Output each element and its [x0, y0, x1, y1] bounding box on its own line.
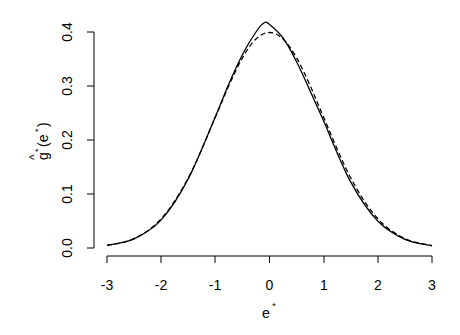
x-title-text: e: [262, 305, 270, 321]
x-tick-3: 0: [266, 277, 274, 293]
y-tick-2: 0.2: [59, 130, 75, 150]
y-axis: [87, 32, 94, 248]
x-axis: [107, 256, 432, 263]
x-tick-labels: -3 -2 -1 0 1 2 3: [101, 277, 436, 293]
y-title-close: ): [35, 122, 51, 127]
y-tick-1: 0.1: [59, 184, 75, 204]
y-title-sup2: *: [33, 128, 43, 132]
y-tick-0: 0.0: [59, 238, 75, 258]
x-tick-2: -1: [209, 277, 222, 293]
y-title-sup: *: [33, 148, 43, 152]
y-tick-labels: 0.0 0.1 0.2 0.3 0.4: [59, 22, 75, 258]
x-title-sup: *: [272, 301, 276, 311]
x-tick-6: 3: [428, 277, 436, 293]
x-tick-5: 2: [374, 277, 382, 293]
x-tick-0: -3: [101, 277, 114, 293]
y-title-rest: (e: [35, 134, 51, 147]
y-title-hat: ^: [27, 154, 41, 160]
x-axis-title: e *: [262, 301, 276, 321]
y-tick-4: 0.4: [59, 22, 75, 42]
y-axis-title: g ^ * (e * ): [27, 122, 51, 160]
density-plot: 0.0 0.1 0.2 0.3 0.4 -3 -2 -1 0 1 2 3 e *…: [0, 0, 460, 335]
dashed-normal-curve: [107, 33, 432, 246]
x-tick-4: 1: [320, 277, 328, 293]
x-tick-1: -2: [155, 277, 168, 293]
solid-density-curve: [107, 22, 432, 246]
y-tick-3: 0.3: [59, 76, 75, 96]
